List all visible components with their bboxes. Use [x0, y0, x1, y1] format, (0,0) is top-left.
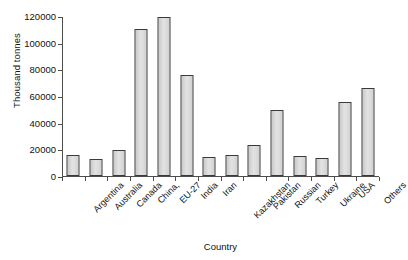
bar	[203, 157, 216, 176]
y-tick-label: 20000	[30, 144, 56, 156]
bar-slot	[356, 16, 379, 176]
bar-slot	[334, 16, 357, 176]
bar	[339, 102, 352, 176]
bar-slot	[243, 16, 266, 176]
bar-slot	[288, 16, 311, 176]
bars-layer	[62, 16, 379, 176]
y-tick-label: 100000	[24, 38, 56, 50]
bar-slot	[85, 16, 108, 176]
bar-slot	[175, 16, 198, 176]
bar-slot	[221, 16, 244, 176]
bar	[135, 29, 148, 176]
bar	[361, 88, 374, 176]
bar	[157, 17, 170, 176]
y-tick-label: 60000	[30, 91, 56, 103]
plot-area: 020000400006000080000100000120000	[62, 17, 379, 177]
bar	[112, 150, 125, 176]
bar	[248, 145, 261, 176]
bar-slot	[266, 16, 289, 176]
bar	[225, 155, 238, 176]
bar	[89, 159, 102, 176]
bar-slot	[198, 16, 221, 176]
x-axis-labels: ArgentinaAustraliaCanadaChina,EU-27India…	[62, 180, 379, 238]
bar	[67, 155, 80, 176]
bar-slot	[130, 16, 153, 176]
y-tick-label: 0	[51, 171, 56, 183]
x-tick-label: India	[199, 180, 220, 201]
y-tick-label: 120000	[24, 11, 56, 23]
bar	[316, 158, 329, 176]
x-axis-title: Country	[62, 241, 379, 252]
bar	[180, 75, 193, 176]
y-axis-title: Thousand tonnes	[11, 11, 22, 131]
bar-slot	[153, 16, 176, 176]
bar	[293, 156, 306, 176]
x-tick-mark	[379, 177, 380, 181]
bar-slot	[107, 16, 130, 176]
bar-slot	[62, 16, 85, 176]
y-tick-label: 80000	[30, 64, 56, 76]
bar-slot	[311, 16, 334, 176]
x-tick-label: Iran	[220, 180, 238, 198]
y-tick-label: 40000	[30, 118, 56, 130]
x-tick-label: Others	[382, 180, 408, 206]
bar	[271, 110, 284, 176]
